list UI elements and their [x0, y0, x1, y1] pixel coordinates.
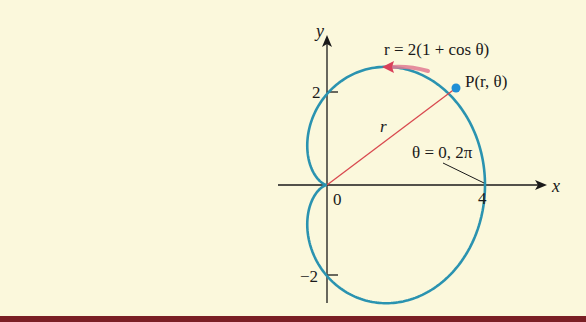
point-label: P(r, θ) [465, 72, 507, 91]
angle-label: θ = 0, 2π [412, 143, 473, 162]
y-tick-label-2: 2 [312, 83, 321, 102]
y-axis-label: y [314, 21, 324, 41]
angle-leader-line [443, 163, 484, 183]
diagram-svg: y x 0 4 2 −2 r = 2(1 + cos θ) P(r, θ) r … [0, 0, 586, 316]
bottom-border-band [0, 316, 586, 322]
cardioid-diagram: y x 0 4 2 −2 r = 2(1 + cos θ) P(r, θ) r … [0, 0, 586, 316]
x-tick-label-4: 4 [478, 189, 487, 208]
point-p [452, 84, 461, 93]
y-tick-label-neg2: −2 [300, 267, 318, 286]
origin-label: 0 [333, 190, 342, 209]
radius-line [327, 88, 456, 185]
x-axis-label: x [551, 176, 560, 196]
equation-label: r = 2(1 + cos θ) [384, 40, 489, 59]
radius-label: r [380, 117, 387, 136]
